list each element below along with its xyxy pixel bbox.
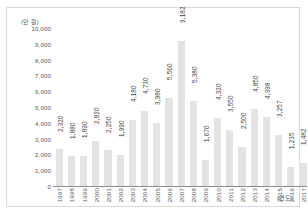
bar-group[interactable]: 4,398 <box>261 28 273 186</box>
bar[interactable] <box>287 167 294 187</box>
x-axis-tick-label: 2007 <box>176 188 188 206</box>
bar-value-label: 2,500 <box>239 112 246 129</box>
bar[interactable] <box>226 130 233 186</box>
bar-value-text: 4,850 <box>251 75 258 92</box>
bar[interactable] <box>141 111 148 186</box>
bar-value-label: 1,670 <box>202 125 209 142</box>
bar-value-text: 1,880 <box>68 122 75 139</box>
bar-group[interactable]: 2,250 <box>102 28 114 186</box>
bar-group[interactable]: 1,670 <box>200 28 212 186</box>
bar[interactable] <box>178 41 185 186</box>
x-axis-tick-label: 2003 <box>127 188 139 206</box>
bar-value-text: 1,482 <box>300 128 307 145</box>
bar-value-label: 1,482 <box>300 128 307 145</box>
bar-value-text: 1,670 <box>202 125 209 142</box>
bar-value-text: 4,730 <box>141 77 148 94</box>
bar-value-text: 5,560 <box>166 64 173 81</box>
bar-value-text: 5,380 <box>190 66 197 83</box>
x-axis-tick-text: 2009 <box>202 188 209 202</box>
bar-value-text: 4,180 <box>129 85 136 102</box>
x-axis-tick-label: 2000 <box>90 188 102 206</box>
bar-group[interactable]: 4,320 <box>212 28 224 186</box>
bar[interactable] <box>238 147 245 187</box>
x-axis-tick-text: 2007 <box>178 188 185 202</box>
plot-area: 2,3201,8801,8902,8202,2501,9904,1804,730… <box>53 28 308 186</box>
bar-group[interactable]: 1,482 <box>297 28 308 186</box>
bar[interactable] <box>190 101 197 186</box>
bar-group[interactable]: 1,890 <box>78 28 90 186</box>
bar-value-label: 1,880 <box>68 122 75 139</box>
bar-value-label: 5,380 <box>190 66 197 83</box>
bar[interactable] <box>104 150 111 186</box>
bar-value-text: 2,820 <box>93 107 100 124</box>
bar[interactable] <box>129 120 136 186</box>
bar-value-label: 4,320 <box>215 83 222 100</box>
x-axis-tick-text: 2017 <box>300 188 307 202</box>
bar-value-label: 2,820 <box>93 107 100 124</box>
x-axis-tick-text: 1999 <box>81 188 88 202</box>
x-axis-tick-text: 1997 <box>56 188 63 202</box>
bar-value-text: 3,550 <box>227 95 234 112</box>
bar[interactable] <box>202 160 209 186</box>
bar-group[interactable]: 1,990 <box>115 28 127 186</box>
x-axis-tick-text: 2012 <box>239 188 246 202</box>
bar-value-text: 1,235 <box>288 132 295 149</box>
x-axis-tick-label: 2004 <box>139 188 151 206</box>
bar-group[interactable]: 4,850 <box>249 28 261 186</box>
bar-value-label: 4,398 <box>263 82 270 99</box>
y-axis-tick-label: 0 <box>11 183 51 190</box>
bar-value-label: 5,560 <box>166 64 173 81</box>
bar[interactable] <box>68 156 75 186</box>
bar[interactable] <box>117 155 124 186</box>
y-axis-tick-label: 6,000 <box>11 88 51 95</box>
bar-value-label: 4,180 <box>129 85 136 102</box>
bar[interactable] <box>275 135 282 186</box>
x-axis-tick-label: 2017 <box>297 188 308 206</box>
bar-group[interactable]: 3,257 <box>273 28 285 186</box>
bar-group[interactable]: 3,550 <box>224 28 236 186</box>
bar-value-text: 3,980 <box>154 89 161 106</box>
bar[interactable] <box>165 98 172 186</box>
x-axis-tick-text: 2002 <box>117 188 124 202</box>
bar[interactable] <box>214 118 221 186</box>
x-axis-tick-label: 2005 <box>151 188 163 206</box>
bar-value-text: 3,257 <box>276 100 283 117</box>
x-axis-tick-label: 2008 <box>188 188 200 206</box>
bar-group[interactable]: 9,182 <box>176 28 188 186</box>
x-axis-tick-label: 2010 <box>212 188 224 206</box>
bar-group[interactable]: 3,980 <box>151 28 163 186</box>
x-axis-line <box>53 186 307 187</box>
bar-group[interactable]: 4,180 <box>127 28 139 186</box>
bar[interactable] <box>80 156 87 186</box>
y-axis-tick-label: 8,000 <box>11 56 51 63</box>
y-axis-tick-label: 2,000 <box>11 151 51 158</box>
bar-group[interactable]: 4,730 <box>139 28 151 186</box>
bar-group[interactable]: 1,880 <box>66 28 78 186</box>
bar-group[interactable]: 2,320 <box>54 28 66 186</box>
bar-group[interactable]: 5,560 <box>163 28 175 186</box>
bar[interactable] <box>153 123 160 186</box>
bar-value-label: 1,990 <box>117 120 124 137</box>
bar[interactable] <box>251 109 258 186</box>
bar-group[interactable]: 2,500 <box>236 28 248 186</box>
bar-value-text: 2,500 <box>239 112 246 129</box>
x-axis-tick-label: 2014 <box>261 188 273 206</box>
bar-group[interactable]: 5,380 <box>188 28 200 186</box>
y-axis-tick-label: 3,000 <box>11 135 51 142</box>
chart-frame: (만 원) 10,0009,0008,0007,0006,0005,0004,0… <box>6 7 300 207</box>
bar-group[interactable]: 1,235 <box>285 28 297 186</box>
bar-value-text: 1,890 <box>81 122 88 139</box>
x-axis-tick-label: 2011 <box>224 188 236 206</box>
y-axis-tick-label: 10,000 <box>11 25 51 32</box>
bar-value-label: 4,730 <box>141 77 148 94</box>
bar[interactable] <box>299 163 306 186</box>
bar-value-label: 1,235 <box>288 132 295 149</box>
x-axis-tick-text: 2014 <box>263 188 270 202</box>
bar-group[interactable]: 2,820 <box>90 28 102 186</box>
x-axis-tick-label: 1999 <box>78 188 90 206</box>
bar[interactable] <box>56 149 63 186</box>
x-axis-tick-text: 2013 <box>251 188 258 202</box>
bar[interactable] <box>92 141 99 186</box>
bar[interactable] <box>263 117 270 186</box>
y-axis-tick-label: 7,000 <box>11 72 51 79</box>
